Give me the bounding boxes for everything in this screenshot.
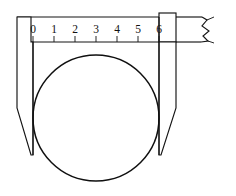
break-tail-bottom — [208, 41, 214, 43]
scale-label-2: 2 — [72, 23, 78, 35]
beam-break-symbol — [201, 17, 214, 43]
scale-label-5: 5 — [135, 23, 141, 35]
zigzag-break-icon — [201, 17, 209, 42]
fixed-jaw-body — [17, 17, 33, 155]
caliper-figure: 0 1 2 3 4 5 6 — [0, 0, 236, 196]
scale-label-6: 6 — [156, 23, 162, 35]
scale-label-3: 3 — [93, 23, 99, 35]
fixed-jaw-left — [17, 17, 33, 155]
circular-workpiece — [33, 55, 159, 181]
scale-ticks — [33, 36, 159, 42]
sliding-jaw-body — [159, 42, 176, 155]
scale-label-1: 1 — [51, 23, 57, 35]
caliper-drawing-canvas: 0 1 2 3 4 5 6 — [0, 0, 236, 196]
break-tail-top — [207, 17, 214, 20]
scale-labels: 0 1 2 3 4 5 6 — [30, 23, 162, 35]
scale-label-0: 0 — [30, 23, 36, 35]
scale-label-4: 4 — [114, 23, 120, 35]
